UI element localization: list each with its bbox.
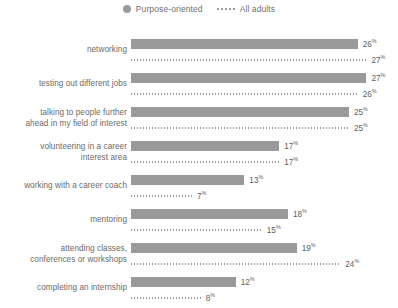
chart-row: volunteering in a career interest area17… (0, 135, 398, 169)
dotted-line (131, 297, 201, 299)
bar-series-row: 19% (131, 243, 316, 253)
bar-series-row: 25% (131, 107, 368, 117)
dotted-series-row: 7% (131, 191, 206, 200)
dotted-value-label: 15% (267, 225, 281, 235)
chart-legend: Purpose-oriented All adults (0, 4, 398, 14)
dotted-value-label: 17% (284, 157, 298, 167)
bar-value-label: 12% (241, 277, 255, 287)
series-area: 26%27% (131, 33, 398, 67)
bar-value-label: 26% (363, 39, 377, 49)
bar (131, 277, 236, 287)
chart-rows: networking26%27%testing out different jo… (0, 33, 398, 305)
dotted-series-row: 26% (131, 89, 377, 98)
bar (131, 175, 244, 185)
dotted-series-row: 17% (131, 157, 298, 166)
category-label: mentoring (0, 215, 127, 226)
series-area: 12%8% (131, 271, 398, 305)
bar-value-label: 17% (284, 141, 298, 151)
bar-value-label: 19% (302, 243, 316, 253)
dotted-series-row: 8% (131, 293, 215, 302)
bar-series-row: 27% (131, 73, 385, 83)
category-label: attending classes, conferences or worksh… (0, 244, 127, 265)
bar-series-row: 18% (131, 209, 307, 219)
category-label: testing out different jobs (0, 79, 127, 90)
series-area: 19%24% (131, 237, 398, 271)
bar-series-row: 17% (131, 141, 298, 151)
dotted-line (131, 229, 262, 231)
dotted-line (131, 59, 366, 61)
bar (131, 243, 297, 253)
dotted-series-row: 24% (131, 259, 359, 268)
dotted-value-label: 27% (371, 55, 385, 65)
dotted-value-label: 24% (345, 259, 359, 269)
dotted-line (131, 161, 279, 163)
bar-value-label: 18% (293, 209, 307, 219)
dotted-series-row: 25% (131, 123, 368, 132)
legend-label-purpose-oriented: Purpose-oriented (136, 4, 203, 14)
bar-value-label: 13% (249, 175, 263, 185)
chart-row: testing out different jobs27%26% (0, 67, 398, 101)
category-label: working with a career coach (0, 181, 127, 192)
chart-row: completing an internship12%8% (0, 271, 398, 305)
bar-series-row: 12% (131, 277, 255, 287)
category-label: volunteering in a career interest area (0, 142, 127, 163)
dotted-line (131, 263, 340, 265)
chart-row: attending classes, conferences or worksh… (0, 237, 398, 271)
dotted-value-label: 8% (206, 293, 215, 303)
bar-series-row: 26% (131, 39, 377, 49)
dotted-line (131, 195, 192, 197)
category-label: networking (0, 45, 127, 56)
dotted-series-row: 27% (131, 55, 385, 64)
dotted-value-label: 26% (363, 89, 377, 99)
series-area: 17%17% (131, 135, 398, 169)
dotted-value-label: 25% (354, 123, 368, 133)
chart-row: working with a career coach13%7% (0, 169, 398, 203)
chart-row: networking26%27% (0, 33, 398, 67)
legend-label-all-adults: All adults (240, 4, 276, 14)
dotted-line (131, 93, 358, 95)
legend-item-purpose-oriented: Purpose-oriented (123, 4, 203, 14)
bar-series-row: 13% (131, 175, 263, 185)
category-label: completing an internship (0, 283, 127, 294)
dotted-line-icon (217, 8, 235, 10)
bar-value-label: 27% (371, 73, 385, 83)
category-label: talking to people further ahead in my fi… (0, 108, 127, 129)
bar (131, 141, 279, 151)
bar (131, 107, 349, 117)
bar (131, 73, 366, 83)
series-area: 25%25% (131, 101, 398, 135)
dotted-value-label: 7% (197, 191, 206, 201)
chart-container: Purpose-oriented All adults networking26… (0, 0, 398, 308)
filled-circle-icon (123, 5, 131, 13)
dotted-line (131, 127, 349, 129)
series-area: 27%26% (131, 67, 398, 101)
series-area: 18%15% (131, 203, 398, 237)
dotted-series-row: 15% (131, 225, 281, 234)
chart-row: mentoring18%15% (0, 203, 398, 237)
bar (131, 39, 358, 49)
bar-value-label: 25% (354, 107, 368, 117)
series-area: 13%7% (131, 169, 398, 203)
legend-item-all-adults: All adults (217, 4, 276, 14)
bar (131, 209, 288, 219)
chart-row: talking to people further ahead in my fi… (0, 101, 398, 135)
